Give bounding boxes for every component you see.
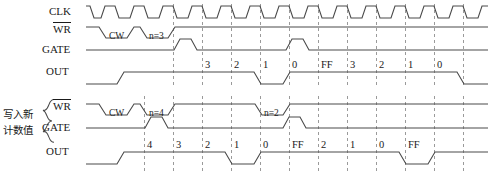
out-value-group1: 2: [379, 60, 384, 71]
group2-caption-line1: 写入新: [3, 108, 33, 121]
row-label-wr-text-group2: WR: [53, 100, 71, 112]
out-value-group2: 2: [205, 140, 210, 151]
row-label-out-group1: OUT: [46, 66, 69, 77]
out-value-group2: 0: [379, 140, 384, 151]
wr-waveform-group1: [86, 27, 488, 38]
out-value-group2: 1: [234, 140, 239, 151]
row-label-wr-group2: WR: [53, 99, 71, 112]
out-value-group1: 1: [408, 60, 413, 71]
out-waveform-group1: [86, 72, 488, 84]
gate-waveform-group2: [86, 117, 488, 128]
out-value-group1: 0: [292, 60, 297, 71]
out-value-group1: 2: [234, 60, 239, 71]
gate-waveform-group1: [86, 39, 488, 50]
out-value-group1: 0: [437, 60, 442, 71]
out-value-group2: FF: [292, 140, 304, 151]
out-value-group1: 3: [205, 60, 210, 71]
wr-pulse-label-n4-group2: n=4: [149, 109, 164, 119]
wr-pulse-label-n2-group2: n=2: [264, 109, 279, 119]
wr-waveform-group2: [86, 104, 488, 115]
out-value-group1: 1: [263, 60, 268, 71]
out-waveform-group2: [86, 152, 488, 164]
timing-diagram-figure: CLK WR GATE OUT CW n=3 3 2 1 0 FF 3 2 1 …: [0, 0, 490, 177]
row-label-out-group2: OUT: [46, 146, 69, 157]
out-value-group2: 0: [263, 140, 268, 151]
out-value-group2: FF: [408, 140, 420, 151]
out-value-group1: 3: [350, 60, 355, 71]
row-label-wr-group1: WR: [53, 22, 71, 35]
row-label-wr-text-group1: WR: [53, 23, 71, 35]
row-label-gate-group2: GATE: [42, 122, 70, 133]
wr-pulse-label-n-group1: n=3: [149, 32, 164, 42]
wr-pulse-label-cw-group1: CW: [109, 32, 124, 42]
clk-waveform: [86, 6, 488, 18]
wr-pulse-label-cw-group2: CW: [109, 109, 124, 119]
out-value-group1: FF: [321, 60, 333, 71]
out-value-group2: 2: [321, 140, 326, 151]
row-label-gate-group1: GATE: [42, 44, 70, 55]
out-value-group2: 4: [147, 140, 152, 151]
row-label-clk: CLK: [49, 6, 71, 17]
out-value-group2: 3: [176, 140, 181, 151]
out-value-group2: 1: [350, 140, 355, 151]
group2-caption-line2: 计数值: [3, 124, 33, 137]
